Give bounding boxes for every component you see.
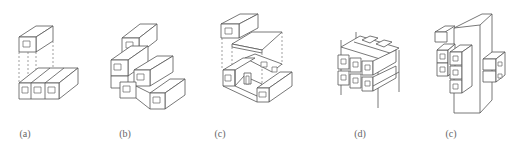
caption-b: (b)	[119, 128, 131, 139]
panel-b: (b)	[95, 0, 205, 153]
caption-d: (d)	[354, 128, 366, 139]
module-stack-diagram-b	[95, 0, 205, 153]
panel-d: (d)	[320, 0, 420, 153]
panel-c: (c)	[200, 0, 315, 153]
module-stack-diagram-d	[320, 0, 420, 153]
panel-a: (a)	[0, 0, 100, 153]
caption-e: (c)	[445, 128, 456, 139]
caption-c: (c)	[214, 128, 225, 139]
panel-e: (c)	[420, 0, 521, 153]
module-stack-diagram-a	[0, 0, 100, 153]
caption-a: (a)	[19, 128, 30, 139]
module-stack-diagram-e	[420, 0, 521, 153]
